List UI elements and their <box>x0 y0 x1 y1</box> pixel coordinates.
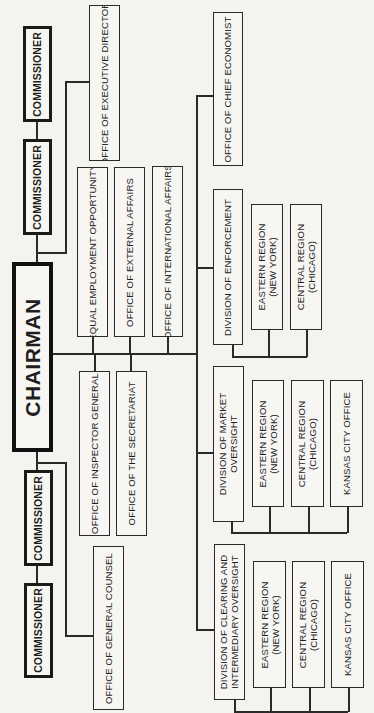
commissioner-box-4: COMMISSIONER <box>24 583 53 678</box>
international-affairs-label: OFFICE OF INTERNATIONAL AFFAIRS <box>162 166 173 337</box>
market-central-label: CENTRAL REGION (CHICAGO) <box>297 400 319 486</box>
mkt-bracket <box>231 532 347 534</box>
enforcement-central-label: CENTRAL REGION (CHICAGO) <box>295 224 317 310</box>
external-affairs-box: OFFICE OF EXTERNAL AFFAIRS <box>114 167 145 337</box>
general-counsel-label: OFFICE OF GENERAL COUNSEL <box>103 553 114 704</box>
inspector-general-box: OFFICE OF INSPECTOR GENERAL <box>79 371 110 536</box>
connector-external <box>129 337 131 354</box>
enf-bracket-east <box>268 330 270 357</box>
connector-international <box>167 337 169 354</box>
chief-economist-label: OFFICE OF CHIEF ECONOMIST <box>223 16 234 162</box>
clr-bracket-central <box>309 688 311 712</box>
secretariat-label: OFFICE OF THE SECRETARIAT <box>126 382 137 526</box>
connector-enforcement <box>196 267 213 269</box>
enforcement-eastern-label: EASTERN REGION (NEW YORK) <box>256 223 278 310</box>
chairman-box: CHAIRMAN <box>12 262 53 452</box>
commissioner-label: COMMISSIONER <box>32 145 43 230</box>
commissioner-box-2: COMMISSIONER <box>23 139 52 235</box>
market-eastern-label: EASTERN REGION (NEW YORK) <box>257 400 279 487</box>
commissioner-label: COMMISSIONER <box>32 32 43 117</box>
connector-general-counsel <box>65 635 93 637</box>
mkt-bracket-kansas <box>347 507 349 533</box>
market-oversight-division-label: DIVISION OF MARKET OVERSIGHT <box>218 393 240 496</box>
clearing-central-box: CENTRAL REGION (CHICAGO) <box>292 561 325 688</box>
executive-director-box: OFFICE OF EXECUTIVE DIRECTOR <box>89 5 120 161</box>
connector-secretariat <box>130 353 132 371</box>
enforcement-division-box: DIVISION OF ENFORCEMENT <box>213 189 243 345</box>
clearing-kansas-label: KANSAS CITY OFFICE <box>342 573 353 676</box>
international-affairs-box: OFFICE OF INTERNATIONAL AFFAIRS <box>152 166 183 337</box>
market-kansas-box: KANSAS CITY OFFICE <box>330 380 363 507</box>
commissioner-label: COMMISSIONER <box>33 476 44 561</box>
connector-market-oversight <box>196 452 213 454</box>
connector-chief-economist <box>196 95 213 97</box>
connector-eeo <box>92 337 94 354</box>
clearing-eastern-label: EASTERN REGION (NEW YORK) <box>259 581 281 668</box>
connector-clearing <box>196 629 214 631</box>
market-kansas-label: KANSAS CITY OFFICE <box>341 392 352 495</box>
clearing-division-box: DIVISION OF CLEARING AND INTERMEDIARY OV… <box>214 544 245 700</box>
connector-exec-director <box>65 81 89 83</box>
commissioner-box-3: COMMISSIONER <box>24 470 53 566</box>
clearing-eastern-box: EASTERN REGION (NEW YORK) <box>253 561 286 688</box>
commissioner-box-1: COMMISSIONER <box>23 26 52 122</box>
connector-lower-staff <box>37 462 67 464</box>
clr-bracket-east <box>270 688 272 712</box>
connector-upper-staff <box>37 252 67 254</box>
enforcement-eastern-box: EASTERN REGION (NEW YORK) <box>251 204 283 330</box>
connector-exec-vertical <box>65 81 67 253</box>
market-oversight-division-box: DIVISION OF MARKET OVERSIGHT <box>213 366 244 522</box>
clr-bracket-kansas <box>348 688 350 712</box>
general-counsel-box: OFFICE OF GENERAL COUNSEL <box>93 546 124 710</box>
clearing-division-label: DIVISION OF CLEARING AND INTERMEDIARY OV… <box>219 555 241 690</box>
external-affairs-label: OFFICE OF EXTERNAL AFFAIRS <box>124 178 135 327</box>
clearing-central-label: CENTRAL REGION (CHICAGO) <box>298 581 320 667</box>
market-central-box: CENTRAL REGION (CHICAGO) <box>291 380 324 507</box>
enforcement-central-box: CENTRAL REGION (CHICAGO) <box>290 204 322 330</box>
enforcement-division-label: DIVISION OF ENFORCEMENT <box>223 198 234 335</box>
mkt-bracket-central <box>308 507 310 533</box>
main-spine <box>53 353 197 355</box>
chief-economist-box: OFFICE OF CHIEF ECONOMIST <box>213 12 243 166</box>
connector-counsel-vertical <box>65 462 67 636</box>
clearing-kansas-box: KANSAS CITY OFFICE <box>331 561 364 688</box>
division-trunk <box>196 95 198 630</box>
executive-director-label: OFFICE OF EXECUTIVE DIRECTOR <box>99 5 110 161</box>
eeo-label: EQUAL EMPLOYMENT OPPORTUNITY <box>87 167 98 337</box>
enf-bracket <box>232 356 307 358</box>
mkt-bracket-east <box>269 507 271 533</box>
chairman-label: CHAIRMAN <box>27 298 38 416</box>
clr-bracket <box>234 711 348 713</box>
commissioner-label: COMMISSIONER <box>33 588 44 673</box>
eeo-box: EQUAL EMPLOYMENT OPPORTUNITY <box>77 167 108 337</box>
inspector-general-label: OFFICE OF INSPECTOR GENERAL <box>89 373 100 534</box>
enf-bracket-central <box>306 330 308 357</box>
market-eastern-box: EASTERN REGION (NEW YORK) <box>252 380 284 507</box>
connector-inspector <box>94 353 96 371</box>
secretariat-box: OFFICE OF THE SECRETARIAT <box>116 371 147 536</box>
